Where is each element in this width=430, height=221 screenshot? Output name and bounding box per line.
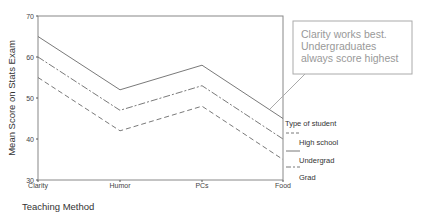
x-tick-label: PCs: [195, 182, 209, 189]
legend: Type of studentHigh schoolUndergradGrad: [285, 119, 339, 182]
callout-annotation: Clarity works best.Undergraduatesalways …: [270, 21, 412, 109]
series-line-grad: [38, 57, 283, 139]
callout-text-line: Clarity works best.: [301, 28, 387, 40]
legend-label: Undergrad: [299, 156, 334, 165]
y-axis-title: Mean Score on Stats Exam: [6, 40, 17, 156]
callout-text-line: Undergraduates: [301, 40, 376, 52]
series-line-undergrad: [38, 37, 283, 119]
y-tick-label: 40: [26, 136, 34, 143]
callout-text-line: always score highest: [301, 52, 399, 64]
y-tick-label: 50: [26, 95, 34, 102]
legend-title: Type of student: [285, 119, 337, 128]
x-tick-label: Humor: [109, 182, 131, 189]
x-tick-label: Clarity: [28, 182, 48, 190]
series-line-high-school: [38, 78, 283, 160]
line-chart: 3040506070 ClarityHumorPCsFood Mean Scor…: [0, 0, 430, 221]
callout-pointer: [270, 74, 305, 109]
series-lines: [38, 37, 283, 160]
legend-label: High school: [299, 138, 339, 147]
y-axis: 3040506070: [26, 13, 38, 184]
y-tick-label: 60: [26, 54, 34, 61]
x-axis-title: Teaching Method: [22, 201, 94, 212]
x-axis: ClarityHumorPCsFood: [28, 180, 291, 190]
x-tick-label: Food: [275, 182, 291, 189]
y-tick-label: 70: [26, 13, 34, 20]
legend-label: Grad: [299, 173, 316, 182]
